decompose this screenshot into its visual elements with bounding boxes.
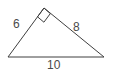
- side-label-leg-b: 8: [73, 21, 80, 33]
- side-label-hypotenuse: 10: [47, 59, 60, 71]
- side-label-leg-a: 6: [13, 18, 20, 30]
- right-triangle-figure: 6 8 10: [0, 0, 113, 74]
- right-angle-square-icon: [38, 8, 51, 22]
- triangle-outline: [8, 8, 104, 57]
